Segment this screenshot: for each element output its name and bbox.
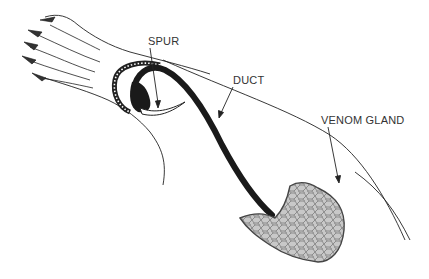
spur-arrow-line (150, 48, 158, 103)
label-spur: SPUR (148, 35, 179, 47)
venom-apparatus-diagram: SPUR DUCT VENOM GLAND (0, 0, 429, 279)
gland-arrowhead (336, 176, 341, 184)
diagram-illustration (0, 0, 429, 279)
duct (135, 68, 272, 215)
limb-outline (45, 15, 410, 240)
spur-arrowhead (156, 101, 161, 109)
claws (22, 17, 55, 81)
duct-arrow-line (221, 87, 233, 113)
label-venom-gland: VENOM GLAND (321, 114, 405, 126)
duct-arrowhead (219, 111, 224, 119)
gland-arrow-line (328, 127, 338, 178)
label-duct: DUCT (233, 74, 264, 86)
leader-arrows (150, 48, 341, 183)
